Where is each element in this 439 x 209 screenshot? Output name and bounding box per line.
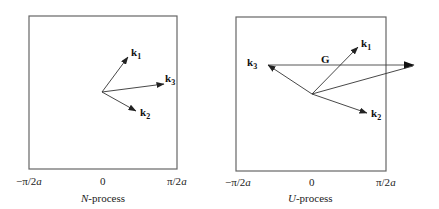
k2-arrow <box>102 92 136 111</box>
u-process-panel: k1 k3 k2 G −π/2a 0 π/2a U-process <box>225 17 414 204</box>
k1-arrow <box>102 57 128 92</box>
k1-plus-k2-arrow <box>312 66 413 94</box>
k2-label: k2 <box>371 107 381 122</box>
k1-label: k1 <box>131 46 141 61</box>
diagram-canvas: k1 k3 k2 −π/2a 0 π/2a N-process k1 k3 k2… <box>0 0 439 209</box>
k1-arrow <box>312 47 358 94</box>
tick-left: −π/2a <box>225 176 251 188</box>
n-process-caption: N-process <box>80 192 125 204</box>
u-process-caption: U-process <box>288 192 333 204</box>
k3-arrow <box>102 84 164 92</box>
k2-arrow <box>312 94 367 113</box>
k2-label: k2 <box>140 106 150 121</box>
k3-arrow <box>268 65 312 94</box>
tick-center: 0 <box>309 176 315 188</box>
k3-label: k3 <box>247 56 257 71</box>
tick-left: −π/2a <box>16 175 42 187</box>
g-vector-label: G <box>321 53 330 65</box>
tick-right: π/2a <box>376 176 396 188</box>
k1-label: k1 <box>361 37 371 52</box>
k3-label: k3 <box>165 72 175 87</box>
n-process-panel: k1 k3 k2 −π/2a 0 π/2a N-process <box>16 16 187 204</box>
tick-center: 0 <box>100 175 106 187</box>
tick-right: π/2a <box>167 175 187 187</box>
